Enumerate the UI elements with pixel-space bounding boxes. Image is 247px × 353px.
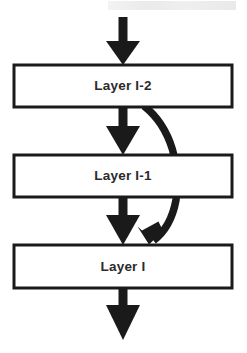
output-arrow [106,288,140,340]
l1-to-l-arrow [106,197,140,245]
l2-to-l1-arrow [106,107,140,155]
diagram-canvas: Layer I-2 Layer I-1 Layer I [0,0,247,353]
layer-l-label: Layer I [14,260,232,274]
layer-l-2-label: Layer I-2 [14,79,232,93]
input-arrow [106,17,140,65]
layer-l-1-label: Layer I-1 [14,169,232,183]
